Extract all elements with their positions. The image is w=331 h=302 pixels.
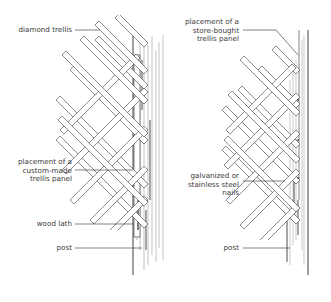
label-custom-made-trellis-panel: placement of a custom-made trellis panel	[18, 158, 72, 184]
label-post-right: post	[223, 244, 239, 253]
label-post-left: post	[56, 244, 72, 253]
label-line: nails	[188, 189, 239, 198]
trellis-illustration	[0, 0, 331, 302]
label-line: trellis panel	[18, 175, 72, 184]
label-galvanized-nails: galvanized or stainless steel nails	[188, 172, 239, 198]
label-diamond-trellis: diamond trellis	[18, 26, 72, 35]
label-wood-lath: wood lath	[37, 220, 72, 229]
label-line: trellis panel	[185, 35, 239, 44]
trellis-diagram: diamond trellis placement of a custom-ma…	[0, 0, 331, 302]
right-trellis	[222, 46, 300, 244]
label-store-bought-trellis-panel: placement of a store-bought trellis pane…	[185, 18, 239, 44]
